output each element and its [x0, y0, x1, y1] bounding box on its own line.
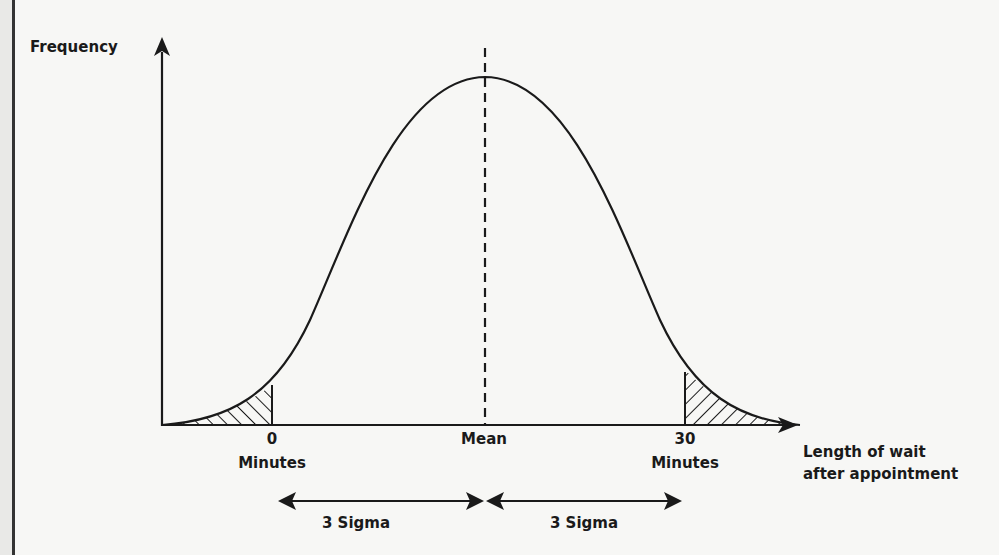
tick-left-value: 0	[267, 430, 277, 448]
sigma-span-right	[486, 492, 682, 510]
x-axis-label-line2: after appointment	[803, 465, 958, 483]
tick-right-unit: Minutes	[651, 454, 719, 472]
x-axis-label-line1: Length of wait	[803, 443, 926, 461]
normal-distribution-diagram: Frequency 0 Minutes Mean 30 Minutes Leng…	[0, 0, 999, 555]
tick-right-value: 30	[675, 430, 696, 448]
sigma-right-label: 3 Sigma	[550, 514, 618, 532]
sigma-span-left	[278, 492, 484, 510]
left-tail-shading	[160, 370, 275, 430]
tick-mean: Mean	[461, 430, 507, 448]
bell-curve	[162, 77, 800, 425]
y-axis-label: Frequency	[30, 38, 118, 56]
tick-left-unit: Minutes	[238, 454, 306, 472]
sigma-left-label: 3 Sigma	[322, 514, 390, 532]
y-axis	[154, 37, 170, 426]
